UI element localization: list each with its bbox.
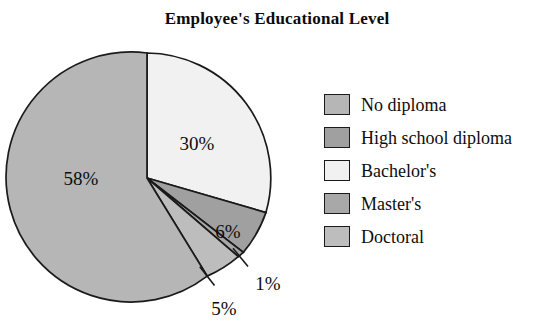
legend: No diploma High school diploma Bachelor'…	[324, 88, 552, 253]
pie-label-high-school: 6%	[215, 221, 241, 242]
pie-label-bachelors: 30%	[180, 133, 215, 154]
legend-item-bachelors[interactable]: Bachelor's	[324, 154, 552, 187]
legend-swatch-icon	[324, 193, 350, 214]
pie-label-no-diploma: 58%	[64, 168, 99, 189]
legend-swatch-icon	[324, 94, 350, 115]
pie-chart-svg: 30% 6% 1% 5% 58%	[0, 0, 320, 332]
legend-label: Master's	[361, 195, 421, 213]
pie-label-masters: 1%	[255, 273, 281, 294]
legend-item-high-school-diploma[interactable]: High school diploma	[324, 121, 552, 154]
legend-label: No diploma	[361, 96, 447, 114]
pie-label-doctoral: 5%	[211, 298, 237, 319]
legend-swatch-icon	[324, 160, 350, 181]
legend-item-masters[interactable]: Master's	[324, 187, 552, 220]
legend-item-no-diploma[interactable]: No diploma	[324, 88, 552, 121]
pie-chart: 30% 6% 1% 5% 58%	[0, 0, 320, 332]
legend-swatch-icon	[324, 226, 350, 247]
legend-label: Bachelor's	[361, 162, 436, 180]
legend-label: High school diploma	[361, 129, 512, 147]
legend-swatch-icon	[324, 127, 350, 148]
legend-label: Doctoral	[361, 228, 424, 246]
legend-item-doctoral[interactable]: Doctoral	[324, 220, 552, 253]
